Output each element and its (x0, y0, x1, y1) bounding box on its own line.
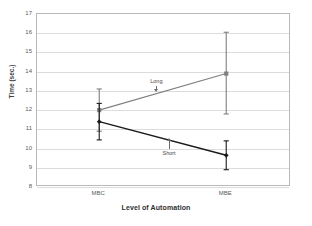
data-point-marker (224, 153, 229, 158)
x-axis-title: Level of Automation (0, 204, 312, 211)
y-tick-label: 12 (8, 106, 32, 112)
plot-area: LongShort (37, 14, 289, 185)
series-layer (37, 14, 291, 187)
y-tick-label: 9 (8, 164, 32, 170)
y-tick-label: 17 (8, 10, 32, 16)
annotation-arrow-head (167, 138, 171, 141)
data-point-marker (224, 71, 228, 75)
plot-frame: LongShort (36, 13, 290, 186)
y-tick-label: 14 (8, 68, 32, 74)
y-tick-label: 15 (8, 48, 32, 54)
annotation-arrow-head (154, 89, 158, 92)
y-tick-label: 8 (8, 183, 32, 189)
y-tick-label: 10 (8, 145, 32, 151)
series-long (97, 32, 229, 131)
series-line (99, 74, 226, 111)
series-short (97, 103, 229, 169)
y-tick-label: 13 (8, 87, 32, 93)
x-tick-label-mbe: MBE (195, 190, 255, 196)
gridline (37, 187, 289, 188)
x-tick-label-mbc: MBC (68, 190, 128, 196)
annotation-label-short: Short (163, 150, 176, 156)
chart-container: Time (sec.) 171615141312111098 LongShort… (0, 0, 312, 226)
data-point-marker (97, 119, 102, 124)
y-tick-label: 11 (8, 125, 32, 131)
annotation-label-long: Long (150, 78, 162, 84)
annotation-arrow-shaft (169, 141, 170, 149)
y-tick-label: 16 (8, 29, 32, 35)
